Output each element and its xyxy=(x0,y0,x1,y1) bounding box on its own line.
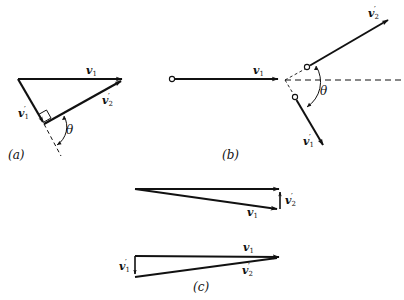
panel-c-upper: v1′ v2′ xyxy=(135,189,296,220)
label-v2-prime: v2′ xyxy=(102,91,113,108)
v1-arrow xyxy=(135,256,279,257)
caption-c: (c) xyxy=(193,280,209,294)
theta-arc xyxy=(307,66,321,107)
dashed-extension-line xyxy=(44,124,61,156)
panel-c-lower: v1 v2′ v1′ xyxy=(119,241,279,278)
dashed-to-particle-2 xyxy=(285,69,305,80)
label-v2-prime: v2′ xyxy=(285,191,296,208)
panel-b: v1 v2′ v1′ θ (b) xyxy=(169,4,402,162)
v2-prime-arrow xyxy=(310,20,388,66)
label-theta: θ xyxy=(320,84,328,98)
panel-a: v1 v2′ v1′ θ (a) xyxy=(8,64,122,162)
v1-prime-arrow xyxy=(135,189,277,209)
label-v1-prime: v1′ xyxy=(18,104,29,121)
label-v1-prime: v1′ xyxy=(119,257,130,274)
particle-2-final xyxy=(304,64,309,69)
caption-b: (b) xyxy=(222,148,239,162)
particle-1-initial xyxy=(169,76,174,81)
label-theta: θ xyxy=(66,123,74,137)
label-v2-prime: v2′ xyxy=(368,4,379,21)
label-v1: v1 xyxy=(243,241,254,255)
v2-prime-arrow xyxy=(135,258,277,277)
particle-1-final xyxy=(292,94,297,99)
label-v2-prime: v2′ xyxy=(242,261,253,278)
dashed-to-particle-1 xyxy=(285,80,294,95)
collision-velocity-diagram: v1 v2′ v1′ θ (a) v1 v2′ v1′ θ (b) v1′ v2 xyxy=(0,0,404,300)
label-v1: v1 xyxy=(86,64,97,78)
label-v1: v1 xyxy=(253,64,264,78)
caption-a: (a) xyxy=(8,148,25,162)
label-v1-prime: v1′ xyxy=(303,132,314,149)
panel-c: v1′ v2′ v1 v2′ v1′ (c) xyxy=(119,189,296,294)
